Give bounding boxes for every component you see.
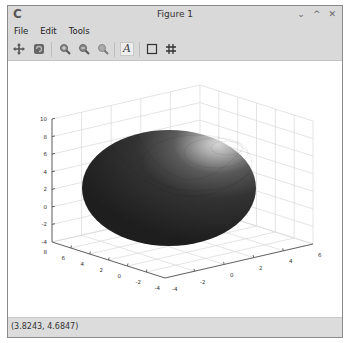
svg-text:6: 6 bbox=[318, 252, 322, 258]
3d-axes[interactable]: 10 8 6 4 2 0 -2 -4 8 6 4 2 bbox=[8, 61, 342, 318]
svg-text:8: 8 bbox=[44, 134, 48, 140]
window-title: Figure 1 bbox=[8, 8, 342, 20]
toggle-grid-icon bbox=[165, 43, 177, 55]
rotate-button[interactable] bbox=[32, 42, 46, 56]
close-button[interactable]: ✕ bbox=[328, 8, 336, 20]
zoom-out-icon bbox=[78, 43, 90, 55]
z-axis-labels: 10 8 6 4 2 0 -2 -4 bbox=[40, 116, 48, 245]
svg-text:4: 4 bbox=[44, 169, 48, 175]
x-axis-labels: -4 -2 0 2 4 6 bbox=[172, 252, 322, 292]
zoom-reset-button[interactable] bbox=[96, 42, 110, 56]
ellipsoid-surface bbox=[82, 130, 256, 246]
svg-text:0: 0 bbox=[230, 272, 234, 278]
toggle-axes-button[interactable] bbox=[145, 42, 159, 56]
svg-text:-2: -2 bbox=[200, 279, 205, 285]
text-insert-button[interactable]: A bbox=[120, 42, 134, 56]
maximize-button[interactable]: ^ bbox=[313, 8, 321, 20]
zoom-reset-icon bbox=[97, 43, 109, 55]
zoom-out-button[interactable] bbox=[77, 42, 91, 56]
menu-file[interactable]: File bbox=[8, 23, 34, 39]
title-bar: C Figure 1 ⌄ ^ ✕ bbox=[8, 6, 342, 23]
y-axis-labels: 8 6 4 2 0 -2 -4 bbox=[44, 249, 161, 291]
svg-text:10: 10 bbox=[40, 116, 47, 122]
svg-text:6: 6 bbox=[62, 255, 66, 261]
rotate-icon bbox=[33, 43, 45, 55]
zoom-in-icon bbox=[59, 43, 71, 55]
svg-text:-2: -2 bbox=[136, 279, 141, 285]
plot-canvas[interactable]: 10 8 6 4 2 0 -2 -4 8 6 4 2 bbox=[8, 61, 342, 318]
toolbar-separator bbox=[114, 42, 115, 57]
svg-text:2: 2 bbox=[44, 186, 48, 192]
svg-text:4: 4 bbox=[81, 261, 85, 267]
toggle-axes-icon bbox=[146, 43, 158, 55]
pan-button[interactable] bbox=[12, 42, 26, 56]
toolbar-separator bbox=[51, 42, 52, 57]
svg-text:-4: -4 bbox=[172, 286, 178, 292]
svg-text:8: 8 bbox=[44, 249, 48, 255]
svg-text:2: 2 bbox=[100, 267, 104, 273]
text-insert-icon: A bbox=[123, 43, 131, 55]
cursor-coordinates: (3.8243, 4.6847) bbox=[11, 322, 78, 332]
menu-edit[interactable]: Edit bbox=[34, 23, 62, 39]
status-bar: (3.8243, 4.6847) bbox=[8, 317, 342, 337]
svg-text:0: 0 bbox=[44, 204, 48, 210]
figure-window: C Figure 1 ⌄ ^ ✕ File Edit Tools bbox=[7, 5, 343, 338]
toolbar: A bbox=[8, 39, 342, 61]
svg-text:-4: -4 bbox=[42, 239, 48, 245]
z-axis-ticks bbox=[52, 118, 55, 224]
svg-text:-4: -4 bbox=[155, 285, 161, 291]
svg-text:0: 0 bbox=[118, 273, 122, 279]
menu-bar: File Edit Tools bbox=[8, 23, 342, 39]
pan-icon bbox=[13, 43, 25, 55]
zoom-in-button[interactable] bbox=[58, 42, 72, 56]
svg-text:4: 4 bbox=[289, 258, 293, 264]
window-controls: ⌄ ^ ✕ bbox=[297, 8, 336, 20]
svg-text:2: 2 bbox=[259, 265, 263, 271]
toggle-grid-button[interactable] bbox=[164, 42, 178, 56]
svg-text:-2: -2 bbox=[42, 221, 47, 227]
svg-text:6: 6 bbox=[44, 151, 48, 157]
toolbar-separator bbox=[139, 42, 140, 57]
x-axis-ticks bbox=[194, 248, 284, 271]
minimize-button[interactable]: ⌄ bbox=[297, 8, 305, 20]
menu-tools[interactable]: Tools bbox=[63, 23, 96, 39]
